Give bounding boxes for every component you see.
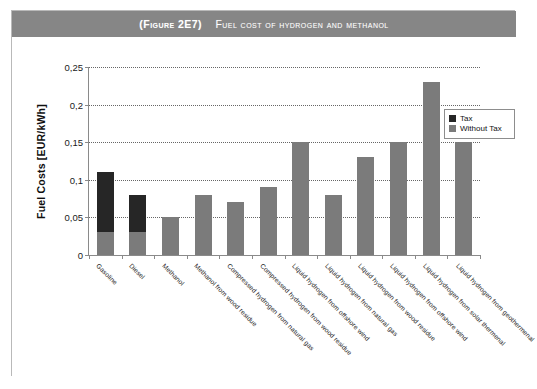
x-axis-tick-mark: [187, 255, 188, 259]
bar-segment-without-tax: [292, 142, 309, 255]
bar-segment-without-tax: [455, 142, 472, 255]
x-axis-tick-mark: [285, 255, 286, 259]
x-axis-tick-mark: [89, 255, 90, 259]
bar-segment-without-tax: [129, 232, 146, 255]
x-axis-ticks: [89, 255, 480, 259]
y-axis-title: Fuel Costs [EUR/kWh]: [34, 67, 48, 256]
x-axis-tick-mark: [415, 255, 416, 259]
bar-segment-without-tax: [195, 195, 212, 255]
chart-bar[interactable]: [423, 82, 440, 255]
bars-layer: [89, 67, 480, 255]
bar-slot: [382, 67, 415, 255]
y-axis-tick-label: 0,05: [65, 212, 84, 223]
bar-segment-without-tax: [260, 187, 277, 255]
x-axis-label: Gasoline: [95, 262, 119, 286]
bar-segment-without-tax: [97, 232, 114, 255]
bar-segment-without-tax: [227, 202, 244, 255]
bar-segment-without-tax: [423, 82, 440, 255]
bar-slot: [317, 67, 350, 255]
chart-bar[interactable]: [325, 195, 342, 255]
chart-bar[interactable]: [357, 157, 374, 255]
bar-slot: [284, 67, 317, 255]
chart-canvas: Fuel Costs [EUR/kWh] 00,050,10,150,20,25…: [12, 37, 516, 377]
x-axis-tick-mark: [122, 255, 123, 259]
chart-bar[interactable]: [227, 202, 244, 255]
x-axis-tick-mark: [252, 255, 253, 259]
x-axis-tick-mark: [447, 255, 448, 259]
legend-label: Tax: [460, 114, 472, 123]
chart-legend: TaxWithout Tax: [444, 109, 515, 139]
figure-frame: (Figure 2E7) Fuel cost of hydrogen and m…: [11, 10, 515, 376]
x-axis-tick-mark: [219, 255, 220, 259]
x-axis-label: Liquid hydrogen from natural gas: [324, 262, 399, 337]
x-axis-label: Methanol: [161, 262, 186, 287]
chart-bar[interactable]: [390, 142, 407, 255]
x-axis-tick-mark: [317, 255, 318, 259]
y-axis-tick-label: 0,1: [70, 174, 83, 185]
y-axis-tick-label: 0,2: [70, 99, 83, 110]
y-axis-tick-label: 0,25: [65, 62, 84, 73]
chart-bar[interactable]: [260, 187, 277, 255]
plot-area: 00,050,10,150,20,25: [88, 67, 480, 256]
bar-segment-without-tax: [325, 195, 342, 255]
y-axis-tick-label: 0,15: [65, 137, 84, 148]
x-axis-tick-mark: [154, 255, 155, 259]
x-axis-tick-mark: [350, 255, 351, 259]
legend-swatch-tax: [449, 115, 456, 122]
legend-swatch-without-tax: [449, 125, 456, 132]
bar-slot: [415, 67, 448, 255]
bar-segment-without-tax: [390, 142, 407, 255]
chart-bar[interactable]: [97, 172, 114, 255]
chart-bar[interactable]: [455, 142, 472, 255]
legend-item[interactable]: Without Tax: [449, 124, 510, 133]
chart-bar[interactable]: [195, 195, 212, 255]
figure-title-band: (Figure 2E7) Fuel cost of hydrogen and m…: [12, 11, 516, 37]
chart-bar[interactable]: [292, 142, 309, 255]
x-axis-label: Diesel: [128, 262, 146, 280]
bar-slot: [252, 67, 285, 255]
x-axis-tick-mark: [480, 255, 481, 259]
figure-title: (Figure 2E7) Fuel cost of hydrogen and m…: [139, 18, 388, 30]
figure-title-text: Fuel cost of hydrogen and methanol: [215, 18, 388, 30]
bar-slot: [89, 67, 122, 255]
legend-label: Without Tax: [460, 124, 502, 133]
bar-segment-tax: [129, 195, 146, 233]
x-axis-label: Methanol from wood residue: [193, 262, 259, 328]
bar-slot: [447, 67, 480, 255]
bar-segment-without-tax: [357, 157, 374, 255]
chart-bar[interactable]: [129, 195, 146, 255]
bar-segment-tax: [97, 172, 114, 232]
y-axis-tick-label: 0: [78, 250, 83, 261]
bar-slot: [187, 67, 220, 255]
bar-slot: [350, 67, 383, 255]
legend-item[interactable]: Tax: [449, 114, 510, 123]
bar-segment-without-tax: [162, 217, 179, 255]
x-axis-tick-mark: [382, 255, 383, 259]
bar-slot: [154, 67, 187, 255]
bar-slot: [122, 67, 155, 255]
bar-slot: [219, 67, 252, 255]
chart-bar[interactable]: [162, 217, 179, 255]
figure-number: (Figure 2E7): [139, 18, 202, 30]
